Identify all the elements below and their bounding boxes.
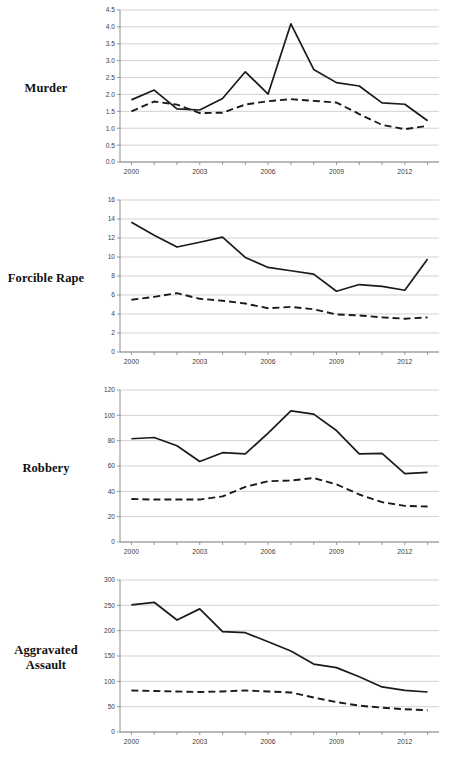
x-tick-label: 2000 xyxy=(124,168,139,175)
x-tick-label: 2003 xyxy=(192,548,207,555)
y-tick-label: 250 xyxy=(104,602,115,609)
y-tick-label: 200 xyxy=(104,627,115,634)
chart-svg: 024681012141620002003200620092012 xyxy=(92,190,449,380)
panel-label-text: Murder xyxy=(25,81,68,96)
panel-forcible-rape: Forcible Rape 02468101214162000200320062… xyxy=(0,190,449,380)
x-tick-label: 2006 xyxy=(261,168,276,175)
y-tick-label: 120 xyxy=(104,386,115,393)
x-tick-label: 2006 xyxy=(261,738,276,745)
plot-forcible-rape: 024681012141620002003200620092012 xyxy=(92,190,449,380)
panel-label-text: Forcible Rape xyxy=(8,271,84,286)
x-axis: 20002003200620092012 xyxy=(120,162,439,175)
series-line-solid xyxy=(131,602,427,692)
y-tick-label: 80 xyxy=(108,437,116,444)
x-tick-label: 2009 xyxy=(329,168,344,175)
series-line-dashed xyxy=(131,690,427,710)
panel-label-forcible-rape: Forcible Rape xyxy=(0,190,92,380)
series-line-dashed xyxy=(131,478,427,507)
y-tick-label: 3.0 xyxy=(106,57,115,64)
x-tick-label: 2000 xyxy=(124,358,139,365)
panel-aggravated-assault: AggravatedAssault 0501001502002503002000… xyxy=(0,570,449,760)
plot-aggravated-assault: 05010015020025030020002003200620092012 xyxy=(92,570,449,760)
x-tick-label: 2006 xyxy=(261,548,276,555)
y-tick-label: 20 xyxy=(108,513,116,520)
gridlines xyxy=(120,390,439,542)
x-tick-label: 2000 xyxy=(124,738,139,745)
y-tick-label: 1.5 xyxy=(106,108,115,115)
x-tick-label: 2000 xyxy=(124,548,139,555)
y-tick-label: 2.5 xyxy=(106,74,115,81)
gridlines xyxy=(120,580,439,732)
y-tick-label: 0 xyxy=(111,538,115,545)
y-tick-label: 8 xyxy=(111,272,115,279)
y-tick-label: 50 xyxy=(108,703,116,710)
y-tick-label: 6 xyxy=(111,291,115,298)
y-tick-label: 3.5 xyxy=(106,40,115,47)
y-tick-label: 60 xyxy=(108,462,116,469)
y-tick-label: 4.5 xyxy=(106,6,115,13)
y-tick-label: 150 xyxy=(104,652,115,659)
y-axis: 0246810121416 xyxy=(108,196,120,355)
gridlines xyxy=(120,10,439,162)
panel-label-text: Robbery xyxy=(22,461,69,476)
y-tick-label: 300 xyxy=(104,576,115,583)
y-tick-label: 2 xyxy=(111,329,115,336)
series-line-solid xyxy=(131,24,427,121)
x-tick-label: 2012 xyxy=(397,358,412,365)
y-tick-label: 2.0 xyxy=(106,91,115,98)
chart-svg: 0.00.51.01.52.02.53.03.54.04.52000200320… xyxy=(92,0,449,190)
y-tick-label: 10 xyxy=(108,253,116,260)
x-tick-label: 2003 xyxy=(192,738,207,745)
x-axis: 20002003200620092012 xyxy=(120,352,439,365)
chart-svg: 05010015020025030020002003200620092012 xyxy=(92,570,449,760)
y-tick-label: 1.0 xyxy=(106,125,115,132)
x-tick-label: 2009 xyxy=(329,738,344,745)
panel-murder: Murder 0.00.51.01.52.02.53.03.54.04.5200… xyxy=(0,0,449,190)
x-axis: 20002003200620092012 xyxy=(120,542,439,555)
x-tick-label: 2012 xyxy=(397,168,412,175)
panel-label-murder: Murder xyxy=(0,0,92,190)
y-tick-label: 0.0 xyxy=(106,158,115,165)
x-tick-label: 2009 xyxy=(329,358,344,365)
y-axis: 0.00.51.01.52.02.53.03.54.04.5 xyxy=(106,6,120,165)
gridlines xyxy=(120,200,439,352)
y-tick-label: 16 xyxy=(108,196,116,203)
x-tick-label: 2003 xyxy=(192,168,207,175)
y-tick-label: 100 xyxy=(104,412,115,419)
plot-robbery: 02040608010012020002003200620092012 xyxy=(92,380,449,570)
y-axis: 020406080100120 xyxy=(104,386,120,545)
y-tick-label: 40 xyxy=(108,488,116,495)
y-axis: 050100150200250300 xyxy=(104,576,120,735)
y-tick-label: 12 xyxy=(108,234,116,241)
chart-svg: 02040608010012020002003200620092012 xyxy=(92,380,449,570)
x-tick-label: 2012 xyxy=(397,738,412,745)
y-tick-label: 0 xyxy=(111,348,115,355)
panel-label-robbery: Robbery xyxy=(0,380,92,570)
x-tick-label: 2012 xyxy=(397,548,412,555)
panel-label-text: AggravatedAssault xyxy=(14,643,78,673)
y-tick-label: 14 xyxy=(108,215,116,222)
series-line-solid xyxy=(131,411,427,474)
y-tick-label: 4 xyxy=(111,310,115,317)
y-tick-label: 0 xyxy=(111,728,115,735)
panel-label-aggravated-assault: AggravatedAssault xyxy=(0,570,92,760)
series-line-dashed xyxy=(131,293,427,319)
x-tick-label: 2003 xyxy=(192,358,207,365)
y-tick-label: 4.0 xyxy=(106,23,115,30)
x-tick-label: 2006 xyxy=(261,358,276,365)
y-tick-label: 0.5 xyxy=(106,142,115,149)
x-tick-label: 2009 xyxy=(329,548,344,555)
y-tick-label: 100 xyxy=(104,678,115,685)
x-axis: 20002003200620092012 xyxy=(120,732,439,745)
plot-murder: 0.00.51.01.52.02.53.03.54.04.52000200320… xyxy=(92,0,449,190)
panel-robbery: Robbery 02040608010012020002003200620092… xyxy=(0,380,449,570)
figure-root: Murder 0.00.51.01.52.02.53.03.54.04.5200… xyxy=(0,0,449,762)
